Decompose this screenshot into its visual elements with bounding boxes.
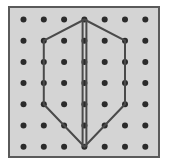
peg-dot [142,80,148,86]
peg-dot [21,144,27,150]
peg-dot [41,123,47,129]
peg-dot [142,59,148,65]
peg-dot [122,123,128,129]
figure-canvas: Geoboard hexagon with vertical axis Hexa… [0,0,169,168]
peg-dot [21,59,27,65]
peg-dot [102,59,108,65]
peg-dot [102,101,108,107]
peg-dot [142,144,148,150]
peg-dot [142,123,148,129]
peg-dot [61,59,67,65]
pegboard-diagram [0,0,169,168]
peg-dot [142,17,148,23]
peg-dot [21,80,27,86]
peg-dot [122,144,128,150]
peg-dot [102,80,108,86]
peg-dot [122,17,128,23]
peg-dot [21,101,27,107]
peg-dot [142,38,148,44]
peg-dot [102,17,108,23]
peg-dot [61,17,67,23]
peg-dot [41,17,47,23]
peg-dot [61,38,67,44]
peg-dot [102,38,108,44]
peg-dot [61,144,67,150]
peg-dot [61,101,67,107]
peg-dot [21,17,27,23]
peg-dot [21,38,27,44]
peg-dot [102,144,108,150]
peg-dot [41,144,47,150]
peg-dot [21,123,27,129]
peg-dot [61,80,67,86]
peg-dot [142,101,148,107]
